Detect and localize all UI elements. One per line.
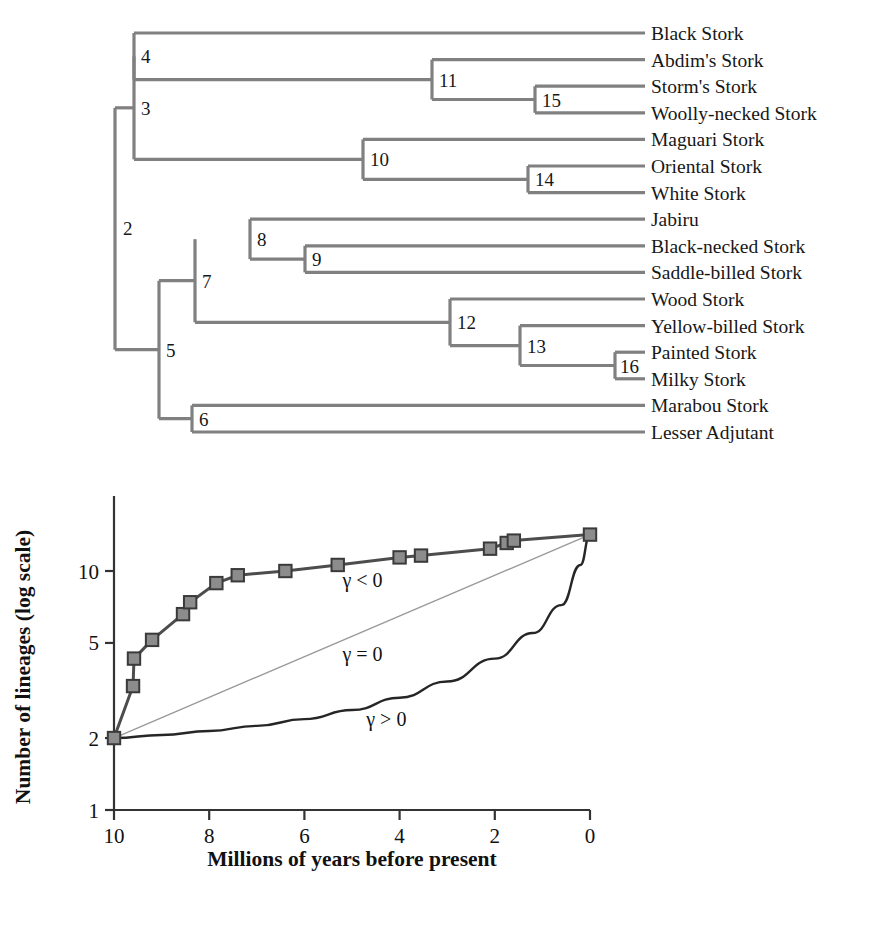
chart-data-marker <box>128 652 140 664</box>
tree-node-number-10: 10 <box>370 149 389 170</box>
tree-tip-label: Jabiru <box>651 209 699 230</box>
chart-data-marker <box>108 732 120 744</box>
chart-data-marker <box>393 551 405 563</box>
y-tick-label: 10 <box>78 560 99 584</box>
tree-tip-label: White Stork <box>651 183 746 204</box>
x-tick-label: 8 <box>204 824 215 848</box>
x-tick-label: 4 <box>394 824 405 848</box>
chart-annotation: γ > 0 <box>365 708 406 731</box>
chart-annotation: γ < 0 <box>341 569 382 592</box>
tree-tip-label: Black Stork <box>651 23 744 44</box>
y-tick-label: 5 <box>89 631 100 655</box>
chart-data-marker <box>508 534 520 546</box>
x-axis-tick-labels: 1086420 <box>104 824 596 848</box>
chart-data-marker <box>184 596 196 608</box>
tree-tip-label: Yellow-billed Stork <box>651 316 805 337</box>
y-axis-title: Number of lineages (log scale) <box>11 530 35 804</box>
x-tick-label: 10 <box>104 824 125 848</box>
tree-tip-label: Maguari Stork <box>651 129 764 150</box>
tree-node-number-16: 16 <box>620 356 639 377</box>
tree-tip-label: Wood Stork <box>651 289 744 310</box>
x-tick-label: 6 <box>299 824 310 848</box>
chart-series-group <box>114 535 590 738</box>
chart-data-marker <box>127 680 139 692</box>
tree-node-number-11: 11 <box>439 70 457 91</box>
chart-data-marker <box>415 549 427 561</box>
chart-data-marker <box>584 528 596 540</box>
tree-node-number-5: 5 <box>166 340 176 361</box>
tree-branches <box>115 33 645 432</box>
tree-node-number-9: 9 <box>312 249 322 270</box>
x-tick-label: 0 <box>585 824 596 848</box>
chart-data-marker <box>177 608 189 620</box>
tree-tip-label: Saddle-billed Stork <box>651 262 802 283</box>
chart-annotations: γ < 0γ = 0γ > 0 <box>341 569 406 731</box>
chart-data-marker <box>232 569 244 581</box>
tree-node-number-2: 2 <box>123 218 133 239</box>
figure-root: 2345678910111213141516 Black StorkAbdim'… <box>0 0 892 933</box>
tree-tip-label: Oriental Stork <box>651 156 762 177</box>
tree-tip-label: Lesser Adjutant <box>651 422 775 443</box>
x-tick-label: 2 <box>490 824 501 848</box>
tree-node-number-12: 12 <box>457 312 476 333</box>
tree-tip-label: Storm's Stork <box>651 76 757 97</box>
tree-node-number-7: 7 <box>202 271 212 292</box>
tree-tip-label: Painted Stork <box>651 342 757 363</box>
tree-node-number-3: 3 <box>141 98 151 119</box>
tree-node-number-8: 8 <box>257 229 267 250</box>
lineage-through-time-chart: 1086420 12510 γ < 0γ = 0γ > 0 Millions o… <box>0 462 892 933</box>
chart-annotation: γ = 0 <box>341 643 382 666</box>
tree-tip-label: Abdim's Stork <box>651 50 764 71</box>
tree-tip-labels: Black StorkAbdim's StorkStorm's StorkWoo… <box>651 23 817 443</box>
y-tick-label: 1 <box>89 799 100 823</box>
y-tick-label: 2 <box>89 727 100 751</box>
tree-node-number-4: 4 <box>141 46 151 67</box>
tree-tip-label: Black-necked Stork <box>651 236 806 257</box>
y-axis-tick-labels: 12510 <box>78 560 99 823</box>
tree-tip-label: Marabou Stork <box>651 395 769 416</box>
tree-node-number-6: 6 <box>199 409 209 430</box>
tree-node-number-15: 15 <box>542 90 561 111</box>
chart-data-marker <box>210 577 222 589</box>
tree-tip-label: Milky Stork <box>651 369 746 390</box>
chart-data-marker <box>279 565 291 577</box>
chart-data-marker <box>146 634 158 646</box>
tree-tip-label: Woolly-necked Stork <box>651 103 817 124</box>
tree-node-numbers: 2345678910111213141516 <box>123 46 639 429</box>
x-axis-title: Millions of years before present <box>207 847 497 871</box>
chart-data-marker <box>484 542 496 554</box>
chart-series-line <box>114 535 590 738</box>
tree-node-number-14: 14 <box>535 169 555 190</box>
tree-node-number-13: 13 <box>527 336 546 357</box>
phylogenetic-tree: 2345678910111213141516 Black StorkAbdim'… <box>0 0 892 462</box>
